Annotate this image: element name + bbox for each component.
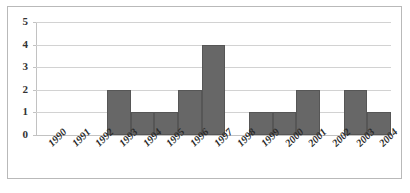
y-axis-tick-label-3: 3 [12,61,28,72]
y-axis-tick-label-2: 2 [12,84,28,95]
y-axis-tick-label-0: 0 [12,129,28,140]
plot-area [36,22,391,135]
bar-1997 [202,45,225,135]
chart-frame: 543210 199019911992199319941995199619971… [7,6,402,179]
y-axis-tick-label-5: 5 [12,16,28,27]
gridline-5 [36,22,391,23]
y-axis-tick-label-4: 4 [12,39,28,50]
y-axis-tick-label-1: 1 [12,106,28,117]
chart-screenshot: 543210 199019911992199319941995199619971… [0,0,410,193]
